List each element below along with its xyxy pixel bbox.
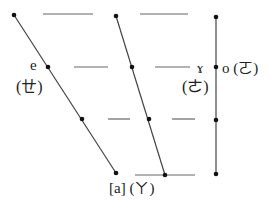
label-a: [a] (ㄚ)	[109, 180, 154, 197]
dot	[12, 13, 17, 18]
dot	[147, 117, 152, 122]
label-gamma-zhuyin: (ㄜ)	[182, 78, 209, 96]
vowel-dots	[12, 13, 219, 178]
label-e-symbol: e	[30, 57, 37, 73]
dot	[214, 172, 219, 177]
dot	[130, 65, 135, 70]
dot-e	[46, 65, 51, 70]
label-gamma-symbol: ɤ	[197, 61, 204, 76]
vowel-lines	[14, 15, 216, 175]
label-o: o (ㄛ)	[222, 60, 258, 77]
label-e-zhuyin: (ㄝ)	[16, 78, 43, 96]
dot	[163, 173, 168, 178]
dot	[214, 118, 219, 123]
dot	[214, 15, 219, 20]
dot-a	[114, 171, 119, 176]
central-vowel-line	[116, 16, 165, 175]
dot-o	[214, 65, 219, 70]
dot	[80, 117, 85, 122]
vowel-diagram: e (ㄝ) ɤ (ㄜ) o (ㄛ) [a] (ㄚ)	[0, 0, 279, 210]
dot	[114, 14, 119, 19]
